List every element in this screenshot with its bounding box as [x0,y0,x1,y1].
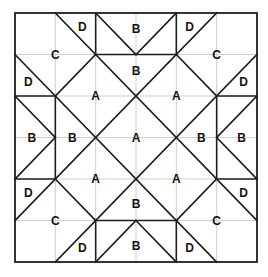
piece-label-d: D [239,75,248,89]
piece-label-c: C [51,214,60,228]
piece-label-d: D [185,20,194,34]
piece-label-d: D [78,241,87,255]
piece-label-b: B [132,22,141,36]
piece-label-d: D [24,75,33,89]
piece-label-c: C [51,48,60,62]
piece-label-d: D [185,241,194,255]
piece-label-c: C [212,214,221,228]
piece-label-a: A [91,89,100,103]
piece-label-b: B [28,131,37,145]
piece-label-d: D [24,186,33,200]
piece-label-d: D [78,20,87,34]
piece-label-a: A [132,131,141,145]
piece-label-c: C [212,48,221,62]
piece-label-b: B [132,197,141,211]
piece-label-b: B [132,239,141,253]
piece-label-a: A [172,172,181,186]
piece-label-b: B [68,131,77,145]
quilt-block-diagram: CCCCDDDDDDDDBBBBBBBBAAAAA [0,0,268,277]
piece-label-b: B [197,131,206,145]
piece-label-a: A [172,89,181,103]
piece-label-a: A [91,172,100,186]
piece-label-d: D [239,186,248,200]
piece-label-b: B [132,64,141,78]
piece-label-b: B [237,131,246,145]
